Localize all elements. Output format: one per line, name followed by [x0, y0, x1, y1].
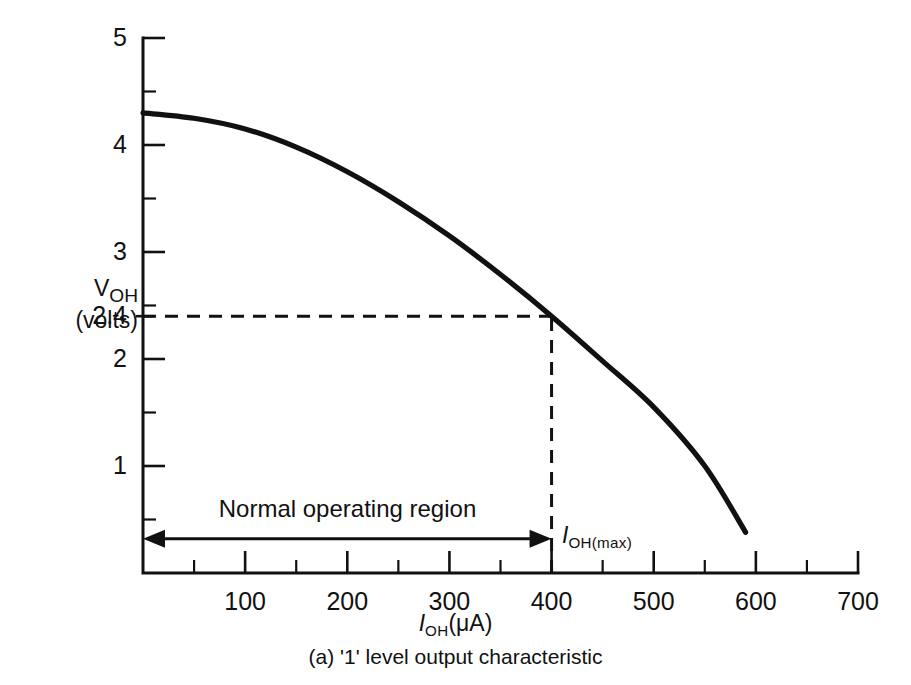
y-tick-label: 3	[87, 239, 127, 264]
operating-region-arrowhead-right	[530, 530, 552, 548]
y-tick-label: 2	[87, 346, 127, 371]
data-curve-group	[143, 113, 746, 532]
y-axis-title: VOH (volts)	[18, 275, 138, 334]
x-tick-label: 600	[721, 589, 791, 614]
guide-lines-group	[143, 316, 552, 573]
x-tick-label: 400	[517, 589, 587, 614]
x-tick-label: 700	[823, 589, 893, 614]
y-tick-label: 1	[87, 453, 127, 478]
x-axis-title: IOH(μA)	[0, 612, 911, 635]
figure-container: 123452.4 100200300400500600700 VOH (volt…	[0, 0, 911, 685]
axes-group	[143, 38, 858, 573]
y-tick-label: 5	[87, 25, 127, 50]
figure-caption: (a) '1' level output characteristic	[0, 645, 911, 669]
output-characteristic-curve	[143, 113, 746, 532]
y-axis-title-line2: (volts)	[18, 307, 138, 334]
axis-lines	[143, 38, 858, 573]
x-tick-label: 500	[619, 589, 689, 614]
operating-region-arrow-group	[143, 530, 552, 548]
ioh-max-annotation-label: IOH(max)	[562, 524, 632, 547]
operating-region-arrowhead-left	[143, 530, 165, 548]
x-tick-label: 200	[312, 589, 382, 614]
plot-area	[0, 0, 911, 685]
x-tick-label: 100	[210, 589, 280, 614]
y-tick-label: 4	[87, 132, 127, 157]
normal-operating-region-label: Normal operating region	[143, 497, 552, 521]
y-axis-title-line1: VOH	[18, 275, 138, 307]
tick-marks-group	[136, 38, 858, 573]
